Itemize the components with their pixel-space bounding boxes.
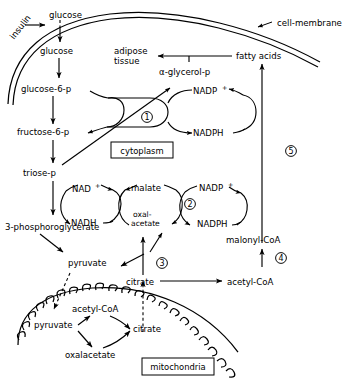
nadp-plus-top-label: NADP: [193, 86, 217, 96]
cell-membrane-pointer: [258, 22, 272, 27]
step-3-branch-arrow: [150, 233, 162, 252]
cytoplasm-label: cytoplasm: [120, 146, 163, 156]
acetylcoa-to-citrate-mito-arrow: [110, 316, 130, 329]
pga-to-pyruvate-arrow: [40, 234, 63, 252]
mitochondria-label: mitochondria: [150, 362, 205, 372]
nad-plus-superscript: +: [95, 182, 100, 190]
pyruvate-to-acetylcoa-mito-arrow: [78, 316, 90, 325]
citrate-mito-label: citrate: [133, 324, 161, 334]
insulin-label: insulin: [8, 13, 33, 41]
step-2-number: 2: [187, 200, 192, 209]
citrate-to-pyruvate-arrow: [121, 254, 144, 266]
pyruvate-mito-label: pyruvate: [34, 320, 73, 330]
glucose-6-p-label: glucose-6-p: [21, 84, 71, 94]
nadh-label: NADH: [71, 218, 96, 228]
glucose-outside-label: glucose: [49, 10, 82, 20]
nadph-bottom-label: NADPH: [197, 219, 228, 229]
adipose-tissue-label-line1: adipose: [114, 46, 148, 56]
step-3-number: 3: [159, 259, 164, 268]
nadph-top-return: [233, 129, 245, 133]
nad-plus-label: NAD: [72, 184, 91, 194]
g6p-shunt-connector: [90, 91, 108, 98]
oxaloacetate-to-citrate-arrow: [103, 331, 130, 348]
citrate-cyto-label: citrate: [126, 277, 154, 287]
oxalacetate-cyto-label-line2: acetate: [131, 219, 160, 228]
nadh-return-line: [103, 221, 113, 223]
acetyl-coa-cyto-label: acetyl-CoA: [227, 277, 273, 287]
alpha-glycerol-p-label: α-glycerol-p: [159, 67, 210, 77]
triose-p-label: triose-p: [23, 168, 56, 178]
oxalacetate-cyto-label-line1: oxal-: [133, 210, 152, 219]
shunt-to-f6p-arrow: [88, 127, 107, 133]
nadp-plus-bottom-superscript: +: [228, 181, 233, 189]
pathway-diagram: cell-membrane insulin glucose glucose gl…: [0, 0, 346, 388]
adipose-tissue-label-line2: tissue: [114, 56, 139, 66]
nadp-plus-top-superscript: +: [222, 84, 227, 92]
fatty-acids-label: fatty acids: [236, 51, 282, 61]
acetyl-coa-mito-label: acetyl-CoA: [72, 304, 118, 314]
step-4-number: 4: [278, 254, 283, 263]
step-1-number: 1: [144, 113, 149, 122]
oxaloacetate-mito-label: oxalacetate: [65, 350, 115, 360]
cell-membrane-label: cell-membrane: [277, 18, 342, 28]
pyruvate-cyto-label: pyruvate: [68, 258, 107, 268]
step-5-number: 5: [288, 147, 293, 156]
pyruvate-to-oxaloacetate-arrow: [78, 331, 92, 347]
nadph-top-label: NADPH: [193, 128, 224, 138]
pyruvate-transport-dashed: [54, 273, 70, 309]
glucose-inside-label: glucose: [40, 46, 73, 56]
malate-label: malate: [131, 183, 161, 193]
nadp-plus-bottom-label: NADP: [199, 183, 223, 193]
pathway-canvas: cell-membrane insulin glucose glucose gl…: [0, 0, 346, 388]
malonyl-coa-label: malonyl-CoA: [226, 235, 281, 245]
fructose-6-p-label: fructose-6-p: [17, 127, 69, 137]
